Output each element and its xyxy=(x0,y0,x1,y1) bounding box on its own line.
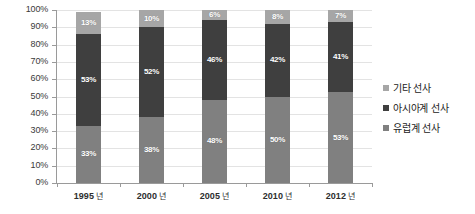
bar-segment[interactable]: 53% xyxy=(76,34,101,126)
bar-segment[interactable]: 41% xyxy=(328,22,353,92)
bar-column[interactable]: 6%46%48% xyxy=(202,10,227,183)
bar-segment[interactable]: 48% xyxy=(202,100,227,183)
y-axis-tick-mark xyxy=(52,148,57,149)
chart-legend: 기타 선사아시아계 선사유럽계 선사 xyxy=(383,80,448,135)
y-axis-tick-mark xyxy=(52,114,57,115)
legend-item-label: 유럽계 선사 xyxy=(393,120,440,135)
x-axis-year: 2012 xyxy=(326,191,346,201)
x-axis-tick-label: 2005 년 xyxy=(180,190,250,201)
y-axis-tick-label: 50% xyxy=(2,91,48,101)
bar-segment[interactable]: 50% xyxy=(265,97,290,184)
x-axis-year-suffix: 년 xyxy=(94,192,103,201)
bar-segment[interactable]: 52% xyxy=(139,27,164,117)
bar-segment-label: 33% xyxy=(81,150,96,158)
bar-segment-label: 52% xyxy=(144,68,159,76)
x-axis-tick-label: 2012 년 xyxy=(306,190,376,201)
legend-swatch-icon xyxy=(383,125,389,131)
bar-column[interactable]: 10%52%38% xyxy=(139,10,164,183)
legend-swatch-icon xyxy=(383,85,389,91)
y-axis-tick-label: 10% xyxy=(2,160,48,170)
y-axis-tick-label: 80% xyxy=(2,39,48,49)
x-axis-year: 2000 xyxy=(137,191,157,201)
y-axis-tick-label: 90% xyxy=(2,21,48,31)
bar-segment[interactable]: 7% xyxy=(328,10,353,22)
x-axis-tick-mark xyxy=(183,183,184,187)
bar-segment-label: 48% xyxy=(207,137,222,145)
bar-segment[interactable]: 6% xyxy=(202,10,227,20)
legend-item-label: 기타 선사 xyxy=(393,80,431,95)
bar-segment[interactable]: 38% xyxy=(139,117,164,183)
bar-segment-label: 50% xyxy=(270,136,285,144)
y-axis-tick-mark xyxy=(52,62,57,63)
bar-segment-label: 38% xyxy=(144,146,159,154)
y-axis-tick-label: 20% xyxy=(2,142,48,152)
y-axis-tick-mark xyxy=(52,79,57,80)
y-axis-tick-label: 40% xyxy=(2,108,48,118)
y-axis-tick-mark xyxy=(52,10,57,11)
bar-segment-label: 7% xyxy=(335,12,346,20)
x-axis-year-suffix: 년 xyxy=(220,192,229,201)
bar-segment[interactable]: 8% xyxy=(265,10,290,24)
x-axis-tick-label: 2010 년 xyxy=(243,190,313,201)
bar-segment-label: 10% xyxy=(144,15,159,23)
x-axis-year: 2010 xyxy=(263,191,283,201)
legend-item[interactable]: 기타 선사 xyxy=(383,80,448,95)
bar-segment-label: 8% xyxy=(272,13,283,21)
bar-segment[interactable]: 42% xyxy=(265,24,290,97)
x-axis-tick-mark xyxy=(120,183,121,187)
y-axis-tick-mark xyxy=(52,166,57,167)
y-axis-tick-mark xyxy=(52,45,57,46)
bar-segment[interactable]: 10% xyxy=(139,10,164,27)
bar-segment[interactable]: 46% xyxy=(202,20,227,100)
legend-item[interactable]: 유럽계 선사 xyxy=(383,120,448,135)
y-axis-tick-label: 30% xyxy=(2,125,48,135)
bar-segment[interactable]: 53% xyxy=(328,92,353,183)
x-axis-tick-mark xyxy=(372,183,373,187)
x-axis-year-suffix: 년 xyxy=(283,192,292,201)
bar-segment-label: 13% xyxy=(81,19,96,27)
legend-item-label: 아시아계 선사 xyxy=(393,100,448,115)
x-axis-tick-label: 1995 년 xyxy=(54,190,124,201)
legend-item[interactable]: 아시아계 선사 xyxy=(383,100,448,115)
stacked-bar-chart: 100%90%80%70%60%50%40%30%20%10%0% 13%53%… xyxy=(0,0,475,214)
x-axis-tick-label: 2000 년 xyxy=(117,190,187,201)
bar-segment-label: 46% xyxy=(207,56,222,64)
x-axis-tick-mark xyxy=(309,183,310,187)
bar-column[interactable]: 8%42%50% xyxy=(265,10,290,183)
legend-swatch-icon xyxy=(383,105,389,111)
y-axis-tick-mark xyxy=(52,27,57,28)
y-axis-tick-mark xyxy=(52,97,57,98)
x-axis-line xyxy=(56,183,373,184)
y-axis-tick-label: 60% xyxy=(2,73,48,83)
bar-segment-label: 53% xyxy=(333,134,348,142)
bar-segment-label: 6% xyxy=(209,11,220,19)
x-axis-tick-mark xyxy=(246,183,247,187)
x-axis-year-suffix: 년 xyxy=(157,192,166,201)
y-axis-tick-label: 0% xyxy=(2,177,48,187)
x-axis-year: 2005 xyxy=(200,191,220,201)
plot-area: 13%53%33%10%52%38%6%46%48%8%42%50%7%41%5… xyxy=(57,10,372,183)
bar-segment-label: 53% xyxy=(81,76,96,84)
bar-column[interactable]: 7%41%53% xyxy=(328,10,353,183)
y-axis-tick-label: 70% xyxy=(2,56,48,66)
x-axis-tick-mark xyxy=(57,183,58,187)
bar-segment-label: 41% xyxy=(333,53,348,61)
bar-segment-label: 42% xyxy=(270,56,285,64)
y-axis-tick-label: 100% xyxy=(2,4,48,14)
bar-segment[interactable]: 13% xyxy=(76,12,101,34)
x-axis-year-suffix: 년 xyxy=(346,192,355,201)
bar-segment[interactable]: 33% xyxy=(76,126,101,183)
bar-column[interactable]: 13%53%33% xyxy=(76,10,101,183)
y-axis-tick-mark xyxy=(52,131,57,132)
x-axis-year: 1995 xyxy=(74,191,94,201)
